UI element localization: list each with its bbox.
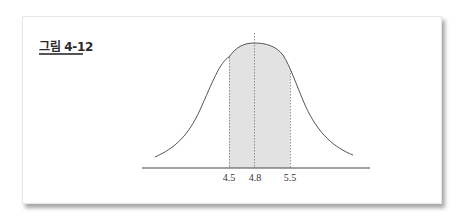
shaded-region [229,43,290,168]
tick-label-4-5: 4.5 [223,172,236,183]
tick-label-4-8: 4.8 [249,172,262,183]
tick-label-5-5: 5.5 [284,172,297,183]
normal-distribution-chart: 4.5 4.8 5.5 [0,0,466,220]
